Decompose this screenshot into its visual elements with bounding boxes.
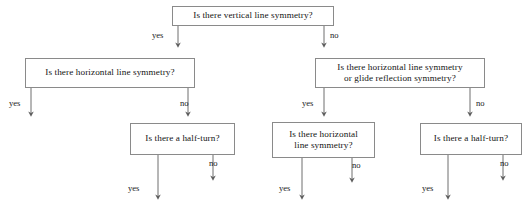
node-is-there-a-half-turn-right[interactable]: Is there a half-turn? bbox=[420, 123, 522, 155]
edge-label-vertical-yes: yes bbox=[152, 31, 163, 40]
edge-label-halfturn-right-yes: yes bbox=[422, 184, 433, 193]
edge-label-halfturn-right-no: no bbox=[500, 159, 509, 168]
edge-label-halfturn-left-no: no bbox=[209, 159, 218, 168]
node-is-there-horizontal-line-symmetry-mid[interactable]: Is there horizontal line symmetry? bbox=[272, 122, 375, 158]
node-is-there-a-half-turn-left[interactable]: Is there a half-turn? bbox=[130, 123, 235, 155]
edge-label-halfturn-left-yes: yes bbox=[128, 184, 139, 193]
node-is-there-horizontal-or-glide-reflection-symmetry[interactable]: Is there horizontal line symmetry or gli… bbox=[315, 58, 485, 88]
flowchart-canvas: Is there vertical line symmetry? Is ther… bbox=[0, 0, 532, 211]
edge-label-vertical-no: no bbox=[330, 31, 339, 40]
node-is-there-horizontal-line-symmetry-left[interactable]: Is there horizontal line symmetry? bbox=[25, 58, 195, 88]
node-is-there-vertical-line-symmetry[interactable]: Is there vertical line symmetry? bbox=[172, 6, 334, 26]
edge-label-horizontal-left-yes: yes bbox=[9, 99, 20, 108]
edge-label-horizontal-left-no: no bbox=[180, 99, 189, 108]
edge-label-horizontal-mid-yes: yes bbox=[279, 184, 290, 193]
edge-label-glide-yes: yes bbox=[302, 99, 313, 108]
edge-label-glide-no: no bbox=[476, 99, 485, 108]
edge-label-horizontal-mid-no: no bbox=[352, 161, 361, 170]
flowchart-connectors bbox=[0, 0, 532, 211]
